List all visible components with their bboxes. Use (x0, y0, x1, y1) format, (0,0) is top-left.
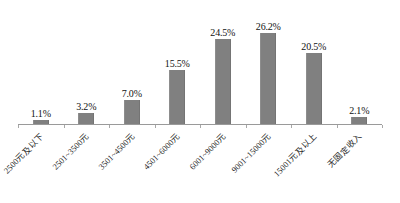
axis-tick (246, 125, 247, 128)
axis-tick (291, 125, 292, 128)
bar-rect[interactable] (306, 53, 322, 124)
x-axis-category-labels: 2500元及以下2501~3500元3501~4500元4501~6000元60… (18, 129, 382, 191)
bar-column: 1.1% (18, 6, 64, 124)
bar-rect[interactable] (260, 33, 276, 124)
bar-value-label: 20.5% (301, 41, 326, 52)
bar-value-label: 26.2% (256, 21, 281, 32)
axis-tick (382, 125, 383, 128)
bar-group[interactable]: 1.1% (18, 6, 64, 124)
category-label-slot: 无固定收入 (337, 129, 383, 191)
bar-value-label: 7.0% (122, 88, 142, 99)
bar-rect[interactable] (215, 39, 231, 124)
axis-tick (109, 125, 110, 128)
axis-tick (337, 125, 338, 128)
bar-value-label: 15.5% (165, 58, 190, 69)
axis-tick (64, 125, 65, 128)
bar-rect[interactable] (124, 100, 140, 124)
bar-value-label: 1.1% (31, 108, 51, 119)
bar-value-label: 24.5% (210, 27, 235, 38)
bar-chart-figure: 1.1%3.2%7.0%15.5%24.5%26.2%20.5%2.1% 250… (0, 0, 400, 203)
axis-tick (18, 125, 19, 128)
axis-tick (155, 125, 156, 128)
axis-tick (200, 125, 201, 128)
bar-rect[interactable] (169, 70, 185, 124)
category-label-text: 2500元及以下 (1, 131, 46, 176)
bar-value-label: 2.1% (349, 105, 369, 116)
